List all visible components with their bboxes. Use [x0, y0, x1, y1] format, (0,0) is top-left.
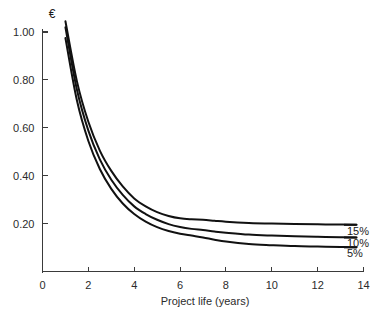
- series-label-5pct: 5%: [347, 247, 363, 259]
- y-axis-tick-label: 0.20: [13, 218, 34, 230]
- y-axis-tick-label: 0.80: [13, 74, 34, 86]
- x-axis-tick-label: 12: [312, 279, 324, 291]
- x-axis-tick-label: 2: [85, 279, 91, 291]
- y-axis-tick-label: 1.00: [13, 26, 34, 38]
- series-end-labels: 15%10%5%: [347, 225, 369, 260]
- y-axis-tick-label: 0.40: [13, 170, 34, 182]
- chart-series-lines: [65, 21, 356, 247]
- y-axis-unit-label: €: [49, 7, 56, 21]
- x-axis-tick-label: 8: [223, 279, 229, 291]
- x-axis-tick-label: 10: [266, 279, 278, 291]
- series-line-15pct: [65, 21, 356, 225]
- series-label-15pct: 15%: [347, 225, 369, 237]
- y-axis-tick-label: 0.60: [13, 122, 34, 134]
- line-chart-plot: 0.200.400.600.801.00 02468101214 15%10%5…: [0, 0, 384, 325]
- series-line-5pct: [65, 38, 356, 247]
- x-axis-title: Project life (years): [161, 295, 250, 307]
- x-axis-tick-label: 6: [177, 279, 183, 291]
- y-axis-tick-labels: 0.200.400.600.801.00: [13, 26, 34, 230]
- x-axis-tick-labels: 02468101214: [39, 279, 369, 291]
- x-axis-tick-label: 4: [131, 279, 137, 291]
- chart-container: 0.200.400.600.801.00 02468101214 15%10%5…: [0, 0, 384, 325]
- x-axis-tick-label: 0: [39, 279, 45, 291]
- series-line-10pct: [65, 27, 356, 237]
- x-axis-tick-label: 14: [357, 279, 369, 291]
